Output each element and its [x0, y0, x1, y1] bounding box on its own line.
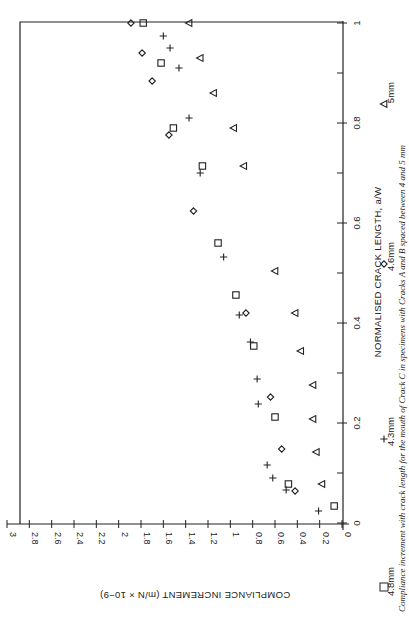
compliance-tick-label: 1.6 — [164, 532, 174, 545]
plus-marker — [255, 400, 262, 407]
legend-label: 5mm — [385, 82, 396, 103]
plus-marker — [315, 507, 322, 514]
series-4-8mm — [140, 20, 337, 509]
plus-marker — [175, 64, 182, 71]
plus-marker — [160, 32, 167, 39]
triangle-left-marker — [297, 348, 303, 355]
compliance-tick-label: 0 — [343, 532, 353, 537]
plus-marker — [185, 114, 192, 121]
legend-label: 4.6mm — [385, 242, 396, 271]
compliance-tick-label: 0.2 — [321, 532, 331, 545]
plot-frame — [20, 21, 343, 530]
plus-marker — [166, 44, 173, 51]
compliance-tick-label: 1 — [231, 532, 241, 537]
diamond-marker — [149, 78, 155, 84]
triangle-left-marker — [197, 55, 203, 62]
compliance-axis-label: COMPLIANCE INCREMENT (m/N × 10−9) — [100, 590, 290, 601]
triangle-left-marker — [292, 310, 298, 317]
plus-marker — [247, 338, 254, 345]
square-marker — [215, 240, 221, 246]
legend-item: 4.6mm — [381, 242, 396, 271]
legend-item: 5mm — [380, 82, 396, 107]
plus-marker — [197, 169, 204, 176]
plot-border — [20, 22, 343, 524]
compliance-tick-label: 1.4 — [187, 532, 197, 545]
square-marker — [285, 481, 291, 487]
compliance-tick-label: 0.6 — [276, 532, 286, 545]
data-points — [128, 20, 338, 515]
crack-length-tick-label: 0.2 — [351, 416, 362, 429]
compliance-tick-label: 2.2 — [97, 532, 107, 545]
diamond-marker — [139, 50, 145, 56]
plus-marker — [236, 311, 243, 318]
figure-caption: Compliance increment with crack length f… — [397, 144, 407, 612]
rotated-figure: 00.20.40.60.811.21.41.61.822.22.42.62.83… — [0, 0, 409, 621]
diamond-marker — [190, 208, 196, 214]
legend-label: 4.8mm — [385, 567, 396, 596]
compliance-tick-label: 0.8 — [254, 532, 264, 545]
diamond-marker — [166, 132, 172, 138]
series-4-3mm — [160, 32, 322, 514]
crack-length-axis: 00.20.40.60.81 — [337, 20, 362, 525]
crack-length-tick-label: 0.4 — [351, 316, 362, 329]
compliance-scatter-chart: 00.20.40.60.811.21.41.61.822.22.42.62.83… — [0, 0, 409, 621]
triangle-left-marker — [309, 382, 315, 389]
compliance-tick-label: 2.6 — [53, 532, 63, 545]
diamond-marker — [279, 446, 285, 452]
plus-marker — [220, 253, 227, 260]
crack-length-tick-label: 0.8 — [351, 116, 362, 129]
triangle-left-marker — [210, 90, 216, 97]
square-marker — [158, 60, 164, 66]
legend-label: 4.3mm — [385, 417, 396, 446]
series-5mm — [185, 20, 324, 488]
square-marker — [233, 292, 239, 298]
crack-length-tick-label: 1 — [351, 20, 362, 25]
square-marker — [199, 163, 205, 169]
crack-length-axis-label: NORMALISED CRACK LENGTH, a/W — [372, 187, 383, 357]
diamond-marker — [292, 488, 298, 494]
triangle-left-marker — [313, 449, 319, 456]
triangle-left-marker — [318, 481, 324, 488]
diamond-marker — [128, 20, 134, 26]
compliance-tick-label: 1.2 — [209, 532, 219, 545]
triangle-left-marker — [185, 20, 191, 27]
triangle-left-marker — [240, 163, 246, 170]
triangle-left-marker — [230, 125, 236, 132]
plus-marker — [269, 474, 276, 481]
plus-marker — [254, 375, 261, 382]
plus-marker — [264, 461, 271, 468]
square-marker — [251, 343, 257, 349]
diamond-marker — [243, 310, 249, 316]
square-marker — [331, 503, 337, 509]
legend-item: 4.3mm — [380, 417, 396, 446]
crack-length-tick-label: 0 — [351, 520, 362, 525]
crack-length-tick-label: 0.6 — [351, 216, 362, 229]
triangle-left-marker — [271, 268, 277, 275]
square-marker — [272, 414, 278, 420]
legend-item: 4.8mm — [380, 567, 396, 596]
compliance-tick-label: 2 — [120, 532, 130, 537]
square-marker — [140, 20, 146, 26]
compliance-tick-label: 3 — [8, 532, 18, 537]
compliance-axis: 00.20.40.60.811.21.41.61.822.22.42.62.83 — [7, 520, 353, 545]
compliance-tick-label: 2.4 — [75, 532, 85, 545]
square-marker — [170, 125, 176, 131]
compliance-tick-label: 2.8 — [30, 532, 40, 545]
compliance-tick-label: 0.4 — [298, 532, 308, 545]
triangle-left-marker — [309, 416, 315, 423]
compliance-tick-label: 1.8 — [142, 532, 152, 545]
diamond-marker — [267, 394, 273, 400]
